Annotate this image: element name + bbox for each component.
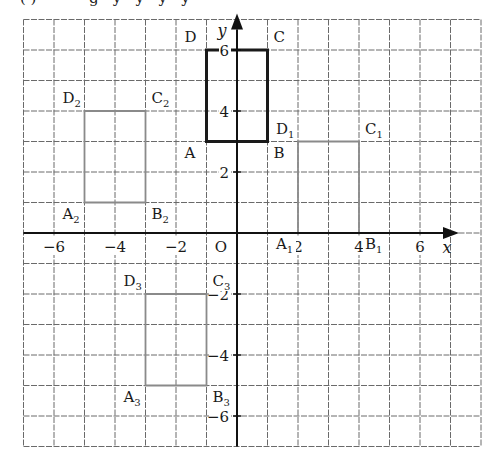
- x-tick-label: −2: [165, 238, 187, 256]
- x-tick-label: 4: [354, 238, 364, 256]
- x-tick-label: 6: [415, 238, 425, 256]
- y-tick-label: −4: [207, 347, 229, 365]
- vertex-label-c: C: [274, 28, 285, 46]
- origin-label: O: [215, 238, 227, 256]
- coordinate-plane: (·) ········· g · y · y · y · y −6−4−224…: [0, 0, 501, 460]
- vertex-label-d: D: [185, 28, 197, 46]
- caption-fragment: (·) ········· g · y · y · y · y: [20, 0, 190, 7]
- rectangles: [85, 50, 360, 386]
- y-axis-arrow-icon: [231, 14, 243, 30]
- x-tick-label: −4: [104, 238, 126, 256]
- axes: [24, 14, 460, 447]
- y-tick-label: 2: [219, 164, 229, 182]
- y-tick-label: 4: [219, 103, 229, 121]
- y-tick-label: −6: [207, 408, 229, 426]
- vertex-label-a: A: [184, 144, 196, 162]
- coordinate-diagram: (·) ········· g · y · y · y · y −6−4−224…: [0, 0, 501, 460]
- caption-text: (·) ········· g · y · y · y · y: [20, 0, 190, 7]
- y-axis-label: y: [216, 21, 227, 40]
- x-tick-label: −6: [43, 238, 65, 256]
- vertex-label-b: B: [274, 144, 285, 162]
- x-axis-label: x: [442, 238, 451, 257]
- y-tick-label: 6: [219, 42, 229, 60]
